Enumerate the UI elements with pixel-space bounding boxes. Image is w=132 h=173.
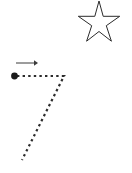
start-point-dot-icon [11, 73, 18, 80]
canvas-background [0, 0, 132, 173]
sketch-canvas: White canvas with a hollow five pointed … [0, 0, 132, 173]
scene-svg [0, 0, 132, 173]
